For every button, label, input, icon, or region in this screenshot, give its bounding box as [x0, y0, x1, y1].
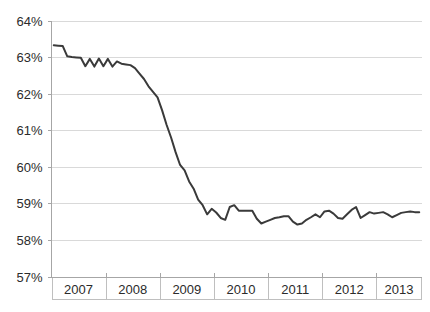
- line-chart: 64%63%62%61%60%59%58%57% 200720082009201…: [0, 0, 430, 312]
- y-tick-label: 60%: [16, 160, 42, 175]
- x-tick-label: 2012: [335, 282, 364, 297]
- y-tick-label: 62%: [16, 87, 42, 102]
- y-tick-label: 58%: [16, 233, 42, 248]
- x-axis-tick-labels: 2007200820092010201120122013: [64, 282, 413, 297]
- y-tick-label: 64%: [16, 14, 42, 29]
- x-tick-label: 2007: [64, 282, 93, 297]
- y-tickmarks: [48, 22, 52, 278]
- x-tick-label: 2010: [227, 282, 256, 297]
- y-tick-label: 59%: [16, 196, 42, 211]
- chart-canvas: 64%63%62%61%60%59%58%57% 200720082009201…: [0, 0, 430, 312]
- y-tick-label: 63%: [16, 50, 42, 65]
- y-axis-tick-labels: 64%63%62%61%60%59%58%57%: [16, 14, 42, 285]
- y-tick-label: 57%: [16, 270, 42, 285]
- x-tick-label: 2011: [281, 282, 309, 297]
- data-series-line: [54, 45, 419, 224]
- x-tick-label: 2013: [384, 282, 413, 297]
- x-tick-label: 2009: [172, 282, 201, 297]
- x-tick-label: 2008: [118, 282, 147, 297]
- y-tick-label: 61%: [16, 123, 42, 138]
